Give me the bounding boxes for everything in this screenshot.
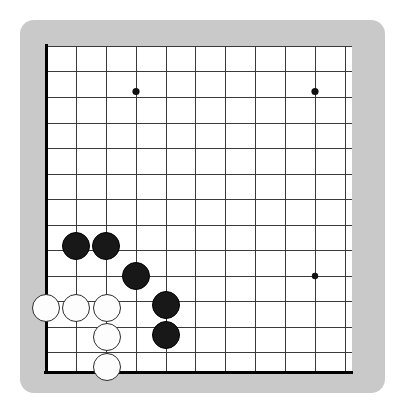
go-board-app <box>0 0 409 417</box>
black-stone[interactable] <box>152 291 180 319</box>
white-stone[interactable] <box>62 294 90 322</box>
white-stone[interactable] <box>93 323 121 351</box>
black-stone[interactable] <box>92 232 120 260</box>
black-stone[interactable] <box>122 262 150 290</box>
black-stone[interactable] <box>152 321 180 349</box>
black-stone[interactable] <box>62 232 90 260</box>
board-surface[interactable] <box>45 46 352 373</box>
white-stone[interactable] <box>93 294 121 322</box>
white-stone[interactable] <box>93 353 121 381</box>
white-stone[interactable] <box>32 294 60 322</box>
